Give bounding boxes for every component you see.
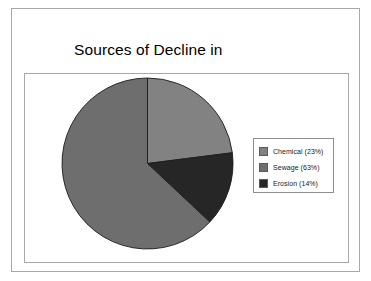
legend-swatch-chemical bbox=[259, 147, 268, 156]
pie-slice-group bbox=[62, 78, 233, 249]
legend-item-sewage[interactable]: Sewage (63%) bbox=[259, 160, 333, 175]
legend-label-sewage: Sewage (63%) bbox=[273, 163, 320, 172]
pie-slice-chemical[interactable] bbox=[148, 78, 233, 164]
plot-area: Chemical (23%) Sewage (63%) Erosion (14%… bbox=[24, 73, 349, 263]
chart-legend: Chemical (23%) Sewage (63%) Erosion (14%… bbox=[253, 138, 334, 193]
chart-title-line-1: Sources of Decline in bbox=[74, 39, 344, 60]
legend-label-chemical: Chemical (23%) bbox=[273, 147, 324, 156]
legend-item-erosion[interactable]: Erosion (14%) bbox=[259, 176, 333, 191]
legend-swatch-erosion bbox=[259, 179, 268, 188]
legend-item-chemical[interactable]: Chemical (23%) bbox=[259, 144, 333, 159]
legend-label-erosion: Erosion (14%) bbox=[273, 179, 318, 188]
legend-swatch-sewage bbox=[259, 163, 268, 172]
chart-frame: Sources of Decline in Water Quality Inde… bbox=[11, 8, 360, 272]
pie-svg bbox=[61, 77, 234, 250]
pie-chart bbox=[61, 77, 234, 250]
